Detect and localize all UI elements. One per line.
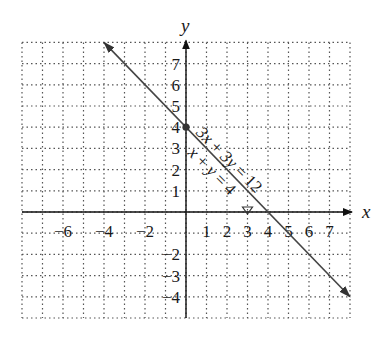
- x-tick-label: 5: [284, 222, 293, 241]
- y-tick-label: 1: [172, 182, 181, 201]
- x-intercept-marker-icon: [243, 207, 253, 214]
- y-tick-label: −2: [162, 245, 180, 264]
- x-tick-label: 6: [305, 222, 314, 241]
- x-tick-label: −4: [95, 222, 114, 241]
- equation-labels: 3x + 3y = 12x + y = 4: [183, 122, 266, 199]
- x-tick-label: 4: [264, 222, 273, 241]
- coordinate-plane-chart: xy −6−4−212345677654321−2−3−4 3x + 3y = …: [0, 0, 377, 361]
- x-tick-label: 3: [243, 222, 252, 241]
- y-tick-label: 6: [172, 76, 181, 95]
- y-tick-label: 2: [172, 161, 181, 180]
- y-tick-label: 3: [172, 139, 181, 158]
- x-tick-label: 1: [202, 222, 211, 241]
- y-axis-label: y: [179, 15, 190, 36]
- x-tick-label: −2: [136, 222, 154, 241]
- x-axis-label: x: [361, 201, 371, 222]
- y-tick-label: 7: [172, 55, 181, 74]
- x-tick-label: 7: [325, 222, 334, 241]
- y-tick-label: −3: [162, 267, 180, 286]
- y-intercept-point: [182, 124, 189, 131]
- x-tick-label: 2: [223, 222, 232, 241]
- tick-labels: −6−4−212345677654321−2−3−4: [54, 55, 334, 307]
- y-tick-label: −4: [162, 288, 181, 307]
- x-tick-label: −6: [54, 222, 72, 241]
